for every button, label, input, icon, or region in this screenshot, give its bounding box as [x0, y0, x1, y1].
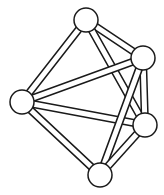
node-top [74, 8, 98, 32]
node-upper-right [131, 46, 155, 70]
bipyramid-graph [0, 0, 164, 195]
edges-layer [22, 20, 145, 175]
node-right [133, 113, 157, 137]
diagram-canvas [0, 0, 164, 195]
node-bottom [88, 163, 112, 187]
node-left [10, 90, 34, 114]
